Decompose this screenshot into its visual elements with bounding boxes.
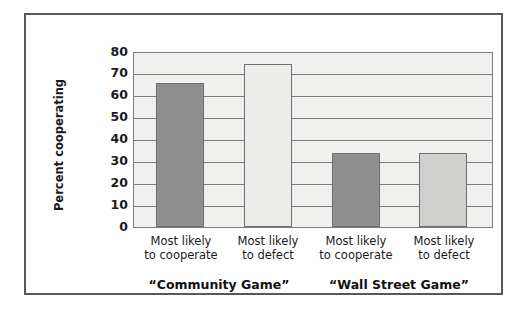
bar-wallstreet-cooperate xyxy=(332,153,380,227)
y-tick-50: 50 xyxy=(88,110,128,123)
category-label-1-line1: Most likely xyxy=(218,234,318,248)
y-axis-title: Percent cooperating xyxy=(52,0,68,75)
plot-area xyxy=(133,52,493,228)
bar-wallstreet-defect xyxy=(419,153,467,227)
category-label-2: Most likely to cooperate xyxy=(306,234,406,262)
category-label-3-line2: to defect xyxy=(394,248,494,262)
y-tick-40: 40 xyxy=(88,132,128,145)
y-tick-60: 60 xyxy=(88,88,128,101)
chart-outer-frame: Percent cooperating 80 70 60 50 40 30 20… xyxy=(24,13,503,295)
y-tick-20: 20 xyxy=(88,176,128,189)
bar-community-cooperate xyxy=(156,83,204,227)
y-axis-tick-labels: 80 70 60 50 40 30 20 10 0 xyxy=(88,45,128,235)
y-tick-30: 30 xyxy=(88,154,128,167)
category-label-0: Most likely to cooperate xyxy=(131,234,231,262)
category-label-3: Most likely to defect xyxy=(394,234,494,262)
gridline-70 xyxy=(134,74,492,75)
category-label-2-line1: Most likely xyxy=(306,234,406,248)
bar-chart-figure: Percent cooperating 80 70 60 50 40 30 20… xyxy=(0,0,518,314)
y-tick-70: 70 xyxy=(88,66,128,79)
bar-community-defect xyxy=(244,64,292,227)
group-label-community: “Community Game” xyxy=(129,277,309,292)
y-tick-0: 0 xyxy=(88,220,128,233)
y-tick-80: 80 xyxy=(88,45,128,58)
category-label-0-line1: Most likely xyxy=(131,234,231,248)
category-label-1: Most likely to defect xyxy=(218,234,318,262)
category-label-1-line2: to defect xyxy=(218,248,318,262)
category-label-2-line2: to cooperate xyxy=(306,248,406,262)
y-axis-title-text: Percent cooperating xyxy=(52,75,66,215)
y-tick-10: 10 xyxy=(88,198,128,211)
group-label-wallstreet: “Wall Street Game” xyxy=(309,277,489,292)
category-label-0-line2: to cooperate xyxy=(131,248,231,262)
category-label-3-line1: Most likely xyxy=(394,234,494,248)
